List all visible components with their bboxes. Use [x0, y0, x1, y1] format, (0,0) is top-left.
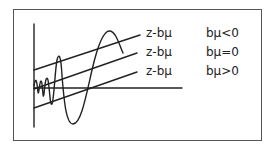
- condition-label-1: bμ<0: [206, 26, 239, 40]
- condition-label-3: bμ>0: [206, 64, 239, 78]
- line-label-1: z-bμ: [146, 26, 172, 40]
- line-b-mu-negative: [34, 35, 140, 70]
- line-b-mu-zero: [34, 53, 137, 89]
- line-label-2: z-bμ: [146, 45, 172, 59]
- line-label-3: z-bμ: [146, 64, 172, 78]
- condition-label-2: bμ=0: [206, 45, 239, 59]
